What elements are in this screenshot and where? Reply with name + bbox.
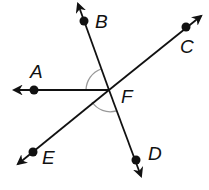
label-F: F: [121, 86, 134, 107]
angle-arc-AFB: [86, 69, 101, 90]
angle-arc-EFD: [92, 102, 116, 112]
point-A: [30, 86, 39, 95]
label-A: A: [29, 61, 43, 82]
point-C: [182, 23, 191, 32]
angle-diagram: A B C D E F: [0, 0, 209, 190]
label-C: C: [180, 36, 194, 57]
label-E: E: [42, 147, 55, 168]
label-D: D: [148, 143, 162, 164]
label-B: B: [95, 11, 108, 32]
point-B: [80, 17, 89, 26]
point-E: [29, 148, 38, 157]
point-D: [132, 156, 141, 165]
